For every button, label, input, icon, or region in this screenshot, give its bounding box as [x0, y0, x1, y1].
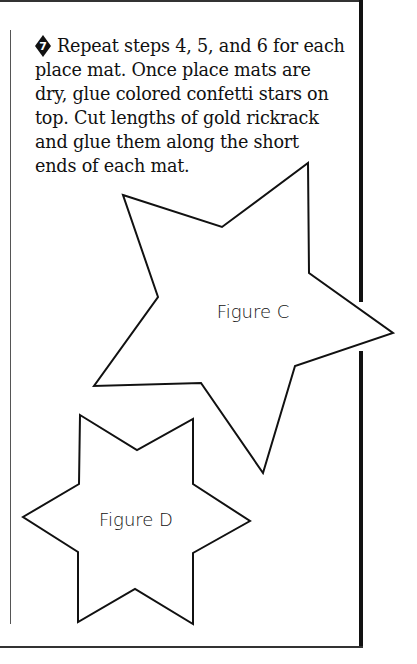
figure-d-label: Figure D [99, 509, 173, 530]
figure-c-label: Figure C [217, 301, 290, 322]
figure-templates: Figure C Figure D [0, 0, 417, 664]
figure-d-star: Figure D [23, 415, 250, 624]
craft-instructions-page: 7Repeat steps 4, 5, and 6 for each place… [0, 0, 417, 664]
figure-c-star: Figure C [94, 163, 393, 473]
